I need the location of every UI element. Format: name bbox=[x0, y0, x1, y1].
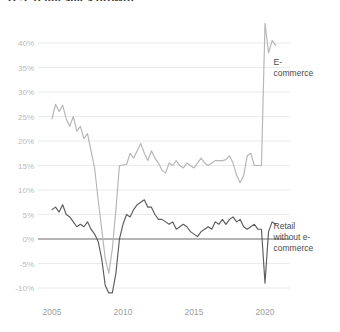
chart-canvas: 40%35%30%25%20%15%10%5%0%-5%-10% 2005201… bbox=[0, 0, 340, 332]
x-axis-tick-label: 2010 bbox=[114, 307, 133, 317]
e-commerce-label: E- bbox=[274, 57, 283, 67]
retail-label: without e- bbox=[273, 232, 311, 242]
y-axis-tick-label: 25% bbox=[18, 113, 34, 122]
series-line-retail-without-e-commerce bbox=[52, 200, 276, 293]
gridlines bbox=[38, 43, 290, 288]
x-axis-tick-label: 2015 bbox=[185, 307, 204, 317]
y-axis-tick-label: 35% bbox=[18, 64, 34, 73]
x-axis-tick-label: 2020 bbox=[256, 307, 275, 317]
y-axis-tick-label: 15% bbox=[18, 162, 34, 171]
y-axis-labels: 40%35%30%25%20%15%10%5%0%-5%-10% bbox=[15, 39, 34, 293]
y-axis-tick-label: 0% bbox=[22, 235, 34, 244]
retail-label: Retail bbox=[274, 221, 296, 231]
retail-label: commerce bbox=[274, 243, 314, 253]
x-axis-tick-label: 2005 bbox=[43, 307, 62, 317]
y-axis-tick-label: 20% bbox=[18, 137, 34, 146]
series-annotations: E-commerceRetailwithout e-commerce bbox=[273, 57, 314, 253]
series-line-e-commerce bbox=[52, 23, 276, 273]
x-axis-labels: 2005201020152020 bbox=[43, 307, 275, 317]
series-lines bbox=[52, 23, 276, 293]
y-axis-tick-label: -10% bbox=[15, 284, 34, 293]
y-axis-tick-label: -5% bbox=[20, 260, 34, 269]
e-commerce-label: commerce bbox=[274, 68, 314, 78]
y-axis-tick-label: 40% bbox=[18, 39, 34, 48]
chart-container: U.S. retail sales growth 40%35%30%25%20%… bbox=[0, 0, 340, 332]
y-axis-tick-label: 10% bbox=[18, 186, 34, 195]
y-axis-tick-label: 5% bbox=[22, 211, 34, 220]
y-axis-tick-label: 30% bbox=[18, 88, 34, 97]
